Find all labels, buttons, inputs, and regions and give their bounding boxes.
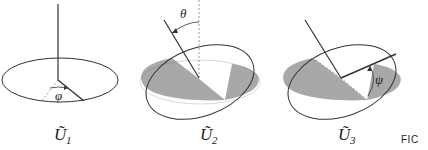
figure-caption-fragment: FIC	[401, 134, 419, 145]
phi-label: φ	[55, 88, 62, 103]
panel-u2: θ	[136, 0, 265, 133]
euler-rotation-diagram: φ θ ψ Ũ 1 Ũ 2 Ũ 3	[0, 0, 428, 150]
shaded-half-disk	[283, 58, 367, 100]
svg-text:2: 2	[212, 134, 218, 146]
shaded-half-disk	[141, 58, 225, 100]
svg-text:3: 3	[349, 134, 356, 146]
theta-arrowhead	[172, 28, 178, 33]
panel-label-u1: Ũ 1	[54, 125, 72, 146]
panel-u3: ψ	[278, 20, 407, 133]
psi-label: ψ	[375, 72, 384, 87]
panel-u1: φ	[2, 4, 118, 103]
svg-text:1: 1	[66, 134, 72, 146]
panel-label-u2: Ũ 2	[200, 125, 218, 146]
theta-label: θ	[180, 6, 187, 21]
panel-label-u3: Ũ 3	[338, 125, 356, 146]
